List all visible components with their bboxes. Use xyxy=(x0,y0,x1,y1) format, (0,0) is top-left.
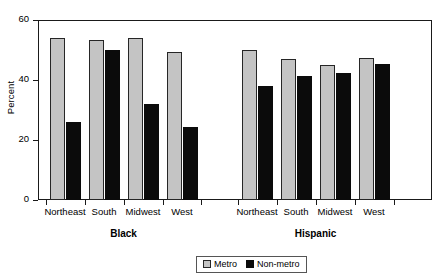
bar-black-midwest-nonmetro xyxy=(144,104,159,200)
bar-black-south-metro xyxy=(89,40,104,201)
legend: MetroNon-metro xyxy=(196,256,307,273)
legend-label: Metro xyxy=(214,259,237,269)
x-axis-tick-mark xyxy=(316,200,317,205)
bar-black-northeast-metro xyxy=(50,38,65,200)
x-axis-tick-mark xyxy=(394,200,395,205)
legend-swatch-metro xyxy=(203,260,211,268)
y-axis-tick-label: 0 xyxy=(24,193,29,204)
x-axis-category-label: Midwest xyxy=(126,206,161,217)
bar-hispanic-northeast-metro xyxy=(242,50,257,200)
legend-item-metro: Metro xyxy=(203,259,237,269)
y-axis-title: Percent xyxy=(5,66,16,130)
x-axis-category-label: Northeast xyxy=(44,206,85,217)
bar-hispanic-midwest-metro xyxy=(320,65,335,200)
bar-black-northeast-nonmetro xyxy=(66,122,81,200)
x-axis-tick-mark xyxy=(124,200,125,205)
bar-hispanic-south-nonmetro xyxy=(297,76,312,201)
bar-black-south-nonmetro xyxy=(105,50,120,200)
y-axis-tick: 40 xyxy=(0,80,38,81)
x-axis-tick-mark xyxy=(201,200,202,205)
x-axis-tick-mark xyxy=(163,200,164,205)
y-axis-tick-mark xyxy=(33,200,38,201)
group-label-black: Black xyxy=(110,228,137,239)
bar-black-west-metro xyxy=(167,52,182,201)
legend-label: Non-metro xyxy=(257,259,300,269)
x-axis-category-label: Midwest xyxy=(318,206,353,217)
x-axis-tick-mark xyxy=(46,200,47,205)
x-axis-tick-mark xyxy=(85,200,86,205)
x-axis-category-label: South xyxy=(92,206,117,217)
legend-swatch-nonmetro xyxy=(246,260,254,268)
x-axis-category-label: West xyxy=(363,206,384,217)
y-axis-tick: 0 xyxy=(0,200,38,201)
bar-hispanic-west-metro xyxy=(359,58,374,201)
bar-hispanic-northeast-nonmetro xyxy=(258,86,273,200)
x-axis-tick-mark xyxy=(355,200,356,205)
x-axis-category-label: West xyxy=(171,206,192,217)
y-axis-tick-label: 60 xyxy=(18,13,29,24)
x-axis-category-label: South xyxy=(284,206,309,217)
y-axis-tick-label: 20 xyxy=(18,133,29,144)
bar-hispanic-west-nonmetro xyxy=(375,64,390,201)
group-label-hispanic: Hispanic xyxy=(295,228,337,239)
bars-layer xyxy=(38,20,432,200)
bar-hispanic-midwest-nonmetro xyxy=(336,73,351,201)
x-axis-tick-mark xyxy=(238,200,239,205)
bar-black-midwest-metro xyxy=(128,38,143,200)
y-axis-tick: 20 xyxy=(0,140,38,141)
bar-hispanic-south-metro xyxy=(281,59,296,200)
x-axis-tick-mark xyxy=(277,200,278,205)
legend-item-nonmetro: Non-metro xyxy=(246,259,300,269)
y-axis-tick: 60 xyxy=(0,20,38,21)
y-axis-tick-label: 40 xyxy=(18,73,29,84)
x-axis-category-label: Northeast xyxy=(236,206,277,217)
bar-chart: Percent 0204060 NortheastSouthMidwestWes… xyxy=(0,0,439,280)
bar-black-west-nonmetro xyxy=(183,127,198,201)
